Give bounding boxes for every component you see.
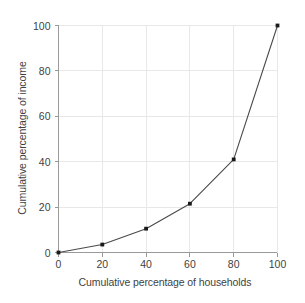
y-tick-label: 40 (39, 156, 51, 168)
series-line (59, 26, 278, 253)
gridlines (59, 26, 278, 253)
x-tick-label: 80 (228, 258, 240, 270)
x-tick-labels: 020406080100 (56, 258, 287, 270)
data-point-markers (57, 24, 280, 255)
x-tick-label: 60 (184, 258, 196, 270)
y-tick-label: 100 (33, 20, 51, 32)
tick-marks (55, 26, 278, 257)
x-tick-label: 0 (56, 258, 62, 270)
data-point-marker (188, 202, 192, 206)
axis-lines (59, 26, 278, 253)
y-tick-label: 60 (39, 110, 51, 122)
plot-area: 020406080100 020406080100 (0, 0, 305, 303)
data-point-marker (144, 227, 148, 231)
y-tick-label: 80 (39, 65, 51, 77)
y-tick-label: 0 (45, 247, 51, 259)
chart-figure: Cumulative percentage of income Cumulati… (0, 0, 305, 303)
data-point-marker (100, 243, 104, 247)
x-tick-label: 40 (140, 258, 152, 270)
data-point-marker (276, 24, 280, 28)
x-tick-label: 100 (269, 258, 287, 270)
x-tick-label: 20 (96, 258, 108, 270)
data-point-marker (57, 251, 61, 255)
y-tick-labels: 020406080100 (33, 20, 51, 259)
y-tick-label: 20 (39, 201, 51, 213)
data-point-marker (232, 158, 236, 162)
lorenz-curve-line (59, 26, 278, 253)
